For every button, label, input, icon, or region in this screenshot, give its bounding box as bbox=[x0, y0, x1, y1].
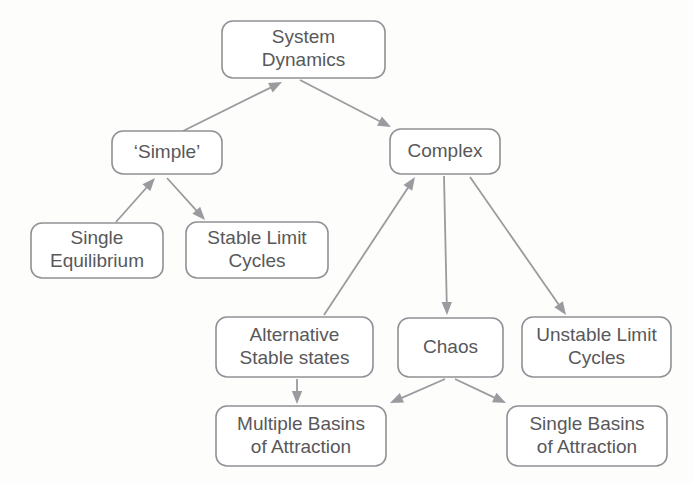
node-label-line: Single bbox=[71, 227, 124, 248]
node-label-line: Stable Limit bbox=[207, 227, 307, 248]
node-label-line: Alternative bbox=[250, 324, 340, 345]
node-label-line: Stable states bbox=[240, 347, 350, 368]
edge-alternative-states-to-multiple bbox=[292, 379, 302, 404]
edge-line bbox=[400, 379, 445, 399]
node-label-line: of Attraction bbox=[251, 436, 351, 457]
edge-arrowhead bbox=[492, 393, 506, 403]
edge-arrowhead bbox=[377, 116, 391, 127]
node-label-line: Complex bbox=[408, 140, 483, 161]
edge-alternative-states-to-complex bbox=[324, 177, 415, 315]
edge-line bbox=[116, 186, 148, 222]
edge-chaos-to-multiple-basins bbox=[390, 379, 445, 403]
node-label-line: Chaos bbox=[423, 336, 478, 357]
edge-arrowhead bbox=[554, 301, 566, 315]
edge-line bbox=[324, 186, 409, 315]
edge-line bbox=[183, 87, 272, 131]
node-label-line: Single Basins bbox=[529, 413, 644, 434]
node-label-line: Multiple Basins bbox=[237, 413, 365, 434]
edge-arrowhead bbox=[442, 302, 452, 315]
edge-single-equilibrium-to-simple bbox=[116, 178, 155, 222]
edge-line bbox=[167, 178, 198, 212]
node-single-basins-of-attraction[interactable]: Single Basinsof Attraction bbox=[507, 406, 667, 466]
node-label-line: Dynamics bbox=[262, 49, 345, 70]
node-stable-limit-cycles[interactable]: Stable LimitCycles bbox=[186, 222, 328, 278]
diagram-canvas: SystemDynamics‘Simple’ComplexSingleEquil… bbox=[0, 0, 693, 483]
node-chaos[interactable]: Chaos bbox=[398, 318, 503, 377]
node-label-line: System bbox=[272, 26, 335, 47]
edge-chaos-to-single-basins bbox=[455, 379, 506, 403]
node-label-line: Cycles bbox=[228, 250, 285, 271]
node-multiple-basins-of-attraction[interactable]: Multiple Basinsof Attraction bbox=[216, 406, 386, 466]
node-system-dynamics[interactable]: SystemDynamics bbox=[222, 21, 385, 78]
node-label-line: Equilibrium bbox=[50, 250, 144, 271]
node-single-equilibrium[interactable]: SingleEquilibrium bbox=[31, 223, 163, 278]
edge-line bbox=[470, 177, 560, 306]
node-layer: SystemDynamics‘Simple’ComplexSingleEquil… bbox=[31, 21, 671, 466]
node-label-line: of Attraction bbox=[537, 436, 637, 457]
edge-system-dynamics-to-complex bbox=[300, 80, 391, 127]
edge-arrowhead bbox=[404, 177, 415, 191]
edge-line bbox=[444, 176, 447, 304]
edge-arrowhead bbox=[292, 391, 302, 404]
edge-arrowhead bbox=[390, 393, 404, 403]
node-label-line: ‘Simple’ bbox=[134, 141, 201, 162]
edge-line bbox=[300, 80, 381, 122]
node-label-line: Unstable Limit bbox=[536, 324, 657, 345]
node-unstable-limit-cycles[interactable]: Unstable LimitCycles bbox=[522, 317, 671, 377]
system-dynamics-diagram: SystemDynamics‘Simple’ComplexSingleEquil… bbox=[0, 0, 693, 483]
node-simple[interactable]: ‘Simple’ bbox=[112, 131, 222, 174]
node-complex[interactable]: Complex bbox=[390, 129, 500, 174]
edge-line bbox=[455, 379, 496, 398]
edge-complex-to-chaos bbox=[442, 176, 452, 315]
edge-arrowhead bbox=[268, 82, 282, 92]
node-alternative-stable-states[interactable]: AlternativeStable states bbox=[216, 317, 373, 377]
edge-simple-to-system-dynamics bbox=[183, 82, 282, 131]
node-label-line: Cycles bbox=[568, 347, 625, 368]
edge-simple-to-stable-limit-cycles bbox=[167, 178, 205, 220]
edge-complex-to-unstable-limit-cycles bbox=[470, 177, 566, 315]
